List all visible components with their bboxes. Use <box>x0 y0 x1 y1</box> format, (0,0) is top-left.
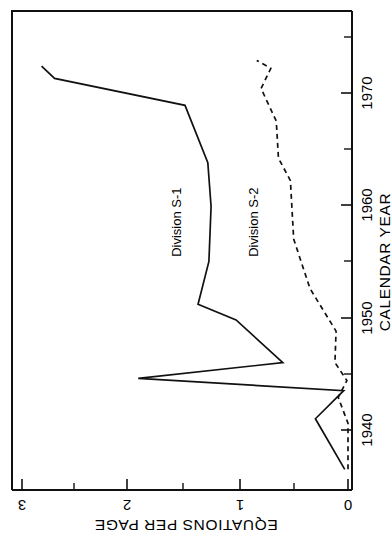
series-annotation-division-s2: Division S-2 <box>246 188 261 257</box>
year-label-1940: 1940 <box>358 413 375 446</box>
series-line-division-s2 <box>257 60 348 469</box>
chart-figure: 1940 1950 1960 1970 CALENDAR YEAR 3 2 1 … <box>0 0 392 537</box>
year-label-1950: 1950 <box>358 301 375 334</box>
year-axis-ticks <box>341 37 352 430</box>
y-axis-title: EQUATIONS PER PAGE <box>94 517 277 534</box>
year-axis-tick-labels: 1940 1950 1960 1970 <box>358 76 375 446</box>
value-label-2: 2 <box>123 497 131 514</box>
value-label-3: 3 <box>18 497 26 514</box>
chart-canvas: 1940 1950 1960 1970 CALENDAR YEAR 3 2 1 … <box>0 0 392 537</box>
value-label-0: 0 <box>344 497 352 514</box>
year-label-1970: 1970 <box>358 76 375 109</box>
value-label-1: 1 <box>236 497 244 514</box>
value-axis-tick-labels: 3 2 1 0 <box>18 497 352 514</box>
series-line-division-s1 <box>42 66 345 469</box>
x-axis-title: CALENDAR YEAR <box>376 193 392 331</box>
series-annotation-division-s1: Division S-1 <box>169 188 184 257</box>
year-label-1960: 1960 <box>358 188 375 221</box>
value-axis-ticks <box>22 479 348 490</box>
